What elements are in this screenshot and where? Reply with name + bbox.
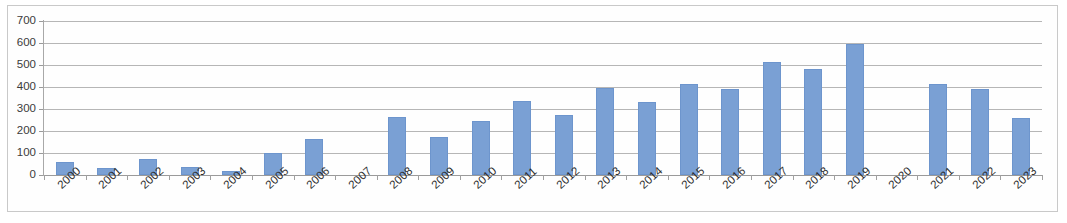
x-axis-tick-label: 2015 bbox=[679, 164, 707, 191]
x-axis-tick-label: 2014 bbox=[637, 164, 665, 191]
x-axis-tick-label: 2016 bbox=[720, 164, 748, 191]
x-axis-labels: 2000200120022003200420052006200720082009… bbox=[0, 0, 1067, 223]
x-axis-tick-label: 2009 bbox=[429, 164, 457, 191]
x-axis-tick-label: 2021 bbox=[928, 164, 956, 191]
bar-chart: 7006005004003002001000 20002001200220032… bbox=[0, 0, 1067, 223]
x-axis-tick-label: 2022 bbox=[970, 164, 998, 191]
x-axis-tick-label: 2019 bbox=[845, 164, 873, 191]
x-axis-tick-label: 2006 bbox=[304, 164, 332, 191]
x-axis-tick-label: 2004 bbox=[221, 164, 249, 191]
x-axis-tick-label: 2013 bbox=[595, 164, 623, 191]
x-axis-tick-label: 2003 bbox=[180, 164, 208, 191]
x-axis-tick-label: 2007 bbox=[346, 164, 374, 191]
x-axis-tick-label: 2008 bbox=[387, 164, 415, 191]
x-axis-tick-label: 2010 bbox=[471, 164, 499, 191]
x-axis-tick-label: 2002 bbox=[138, 164, 166, 191]
x-axis-tick-label: 2001 bbox=[96, 164, 124, 191]
x-axis-tick-label: 2023 bbox=[1011, 164, 1039, 191]
x-axis-tick-label: 2000 bbox=[55, 164, 83, 191]
x-axis-tick-label: 2018 bbox=[803, 164, 831, 191]
x-axis-tick-label: 2005 bbox=[263, 164, 291, 191]
x-axis-tick-label: 2012 bbox=[554, 164, 582, 191]
x-axis-tick-label: 2011 bbox=[512, 165, 539, 191]
x-axis-tick-label: 2020 bbox=[886, 164, 914, 191]
x-axis-tick-label: 2017 bbox=[762, 164, 790, 191]
